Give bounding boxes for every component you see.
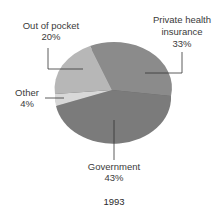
label-government: Government xyxy=(88,161,141,172)
pie-chart: Out of pocket 20% Private health insuran… xyxy=(0,0,223,212)
value-other: 4% xyxy=(20,98,34,109)
value-government: 43% xyxy=(104,172,124,183)
label-out-of-pocket: Out of pocket xyxy=(23,20,80,31)
label-private-line2: insurance xyxy=(161,26,202,37)
label-private-line1: Private health xyxy=(153,14,211,25)
chart-title-year: 1993 xyxy=(103,196,124,207)
value-out-of-pocket: 20% xyxy=(41,31,61,42)
value-private: 33% xyxy=(172,38,192,49)
label-other: Other xyxy=(15,87,39,98)
